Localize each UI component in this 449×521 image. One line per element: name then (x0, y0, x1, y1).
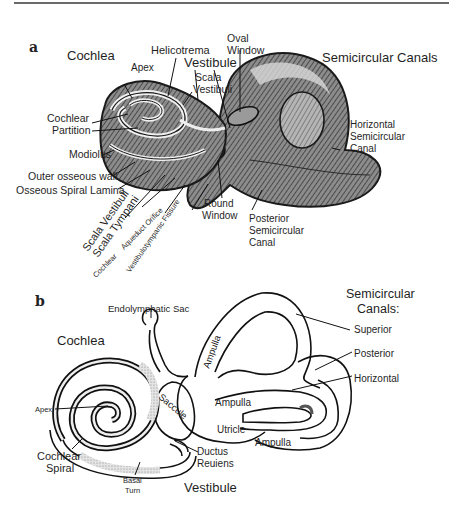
label-ampulla-posterior: Ampulla (255, 437, 292, 448)
label-posterior-sc-3: Canal (249, 237, 275, 248)
label-horizontal-sc-1: Horizontal (350, 119, 395, 130)
label-osseous-spiral-lamina: Osseous Spiral Lamina (16, 184, 125, 196)
panel-a: a (16, 32, 438, 279)
label-ductus-reuniens-2: Reuiens (197, 458, 234, 469)
panel-b-letter: b (35, 293, 45, 309)
labyrinth-outline (143, 293, 352, 456)
label-semicircular-canals-a: Semicircular Canals (322, 50, 438, 65)
label-ampulla-horizontal: Ampulla (215, 397, 252, 408)
label-basal-turn-1: Basal (123, 476, 142, 485)
inner-ear-figure: a (0, 0, 449, 521)
label-posterior: Posterior (354, 348, 395, 359)
label-cochlear-partition-2: Partition (52, 124, 91, 136)
label-horizontal-sc-2: Semicircular (350, 131, 406, 142)
label-saccule: Saccule (157, 391, 190, 421)
panel-a-letter: a (29, 39, 38, 55)
label-superior: Superior (354, 324, 392, 335)
label-cochlear-spiral-2: Spiral (46, 462, 74, 474)
label-round-window-2: Window (202, 210, 238, 221)
panel-b: b (35, 287, 415, 495)
label-utricle: Utricle (217, 424, 246, 435)
label-posterior-sc-1: Posterior (249, 213, 290, 224)
label-horizontal: Horizontal (354, 373, 399, 384)
label-modiolus: Modiolus (69, 148, 111, 160)
label-apex-a: Apex (131, 62, 154, 73)
label-round-window-1: Round (204, 198, 233, 209)
label-vestibule-b: Vestibule (184, 480, 237, 495)
label-semicircular-canals-b-1: Semicircular (346, 287, 415, 301)
label-apex-b: Apex (35, 405, 52, 414)
label-ampulla-superior: Ampulla (201, 333, 223, 370)
label-cochlea-a: Cochlea (67, 48, 115, 63)
label-posterior-sc-2: Semicircular (249, 225, 305, 236)
label-ductus-reuniens-1: Ductus (197, 446, 228, 457)
label-vestibule-a: Vestibule (184, 55, 237, 70)
label-oval-window-1: Oval (227, 32, 249, 44)
label-horizontal-sc-3: Canal (350, 143, 376, 154)
label-endolymphatic-sac: Endolymphatic Sac (108, 303, 190, 314)
label-basal-turn-2: Turn (125, 486, 140, 495)
label-scala-vestibuli-2: Vestibuli (193, 83, 232, 95)
label-cochlear-spiral-1: Cochlear (37, 450, 81, 462)
label-semicircular-canals-b-2: Canals: (357, 302, 399, 316)
label-scala-vestibuli-1: Scala (195, 71, 221, 83)
label-outer-osseous-wall: Outer osseous wall (28, 170, 117, 182)
label-cochlea-b: Cochlea (57, 333, 105, 348)
label-cochlear-partition-1: Cochlear (47, 112, 90, 124)
